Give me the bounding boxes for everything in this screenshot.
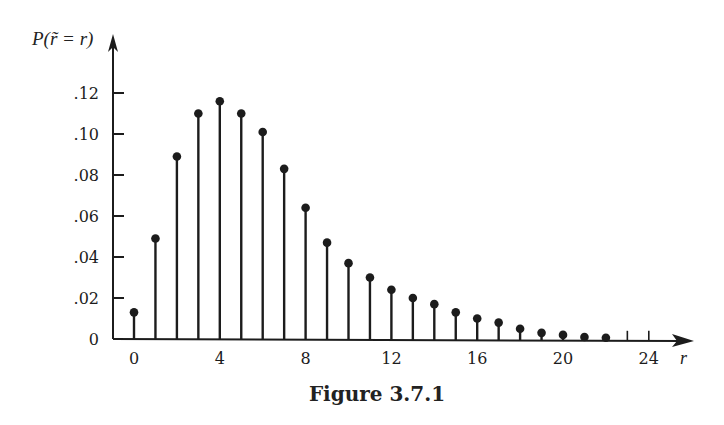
y-tick-label: 0 — [89, 330, 99, 349]
stem-marker — [451, 308, 460, 317]
stem-marker — [173, 152, 182, 161]
x-tick-label: 24 — [639, 349, 659, 368]
stem-marker — [323, 238, 332, 247]
data-stems — [130, 97, 611, 342]
x-tick-label: 20 — [553, 349, 573, 368]
stem-chart: 0.02.04.06.08.10.1204812162024r — [0, 0, 724, 380]
stem-marker — [237, 109, 246, 118]
x-axis-label: r — [680, 348, 688, 368]
stem-marker — [216, 97, 225, 106]
stem-marker — [559, 331, 568, 340]
stem-marker — [344, 259, 353, 268]
stem-marker — [602, 333, 611, 342]
y-tick-label: .04 — [74, 248, 99, 267]
stem-marker — [258, 128, 267, 137]
x-tick-label: 16 — [467, 349, 487, 368]
y-tick-label: .02 — [74, 289, 99, 308]
stem-marker — [387, 286, 396, 295]
stem-marker — [130, 308, 139, 317]
axes: 0.02.04.06.08.10.1204812162024r — [74, 34, 694, 368]
stem-marker — [430, 300, 439, 309]
x-tick-label: 12 — [381, 349, 401, 368]
stem-marker — [366, 273, 375, 282]
stem-marker — [473, 314, 482, 323]
stem-marker — [494, 318, 503, 327]
stem-marker — [409, 294, 418, 303]
stem-marker — [580, 333, 589, 342]
stem-marker — [151, 234, 160, 243]
x-tick-label: 4 — [215, 349, 225, 368]
stem-marker — [516, 324, 525, 333]
x-tick-label: 8 — [301, 349, 311, 368]
stem-marker — [537, 329, 546, 338]
stem-marker — [280, 165, 289, 174]
y-tick-label: .06 — [74, 207, 99, 226]
x-axis-line — [113, 339, 685, 341]
y-tick-label: .10 — [74, 125, 99, 144]
stem-marker — [301, 204, 310, 213]
y-tick-label: .12 — [74, 84, 99, 103]
stem-marker — [194, 109, 203, 118]
y-tick-label: .08 — [74, 166, 99, 185]
x-tick-label: 0 — [129, 349, 139, 368]
figure-caption: Figure 3.7.1 — [0, 382, 724, 406]
